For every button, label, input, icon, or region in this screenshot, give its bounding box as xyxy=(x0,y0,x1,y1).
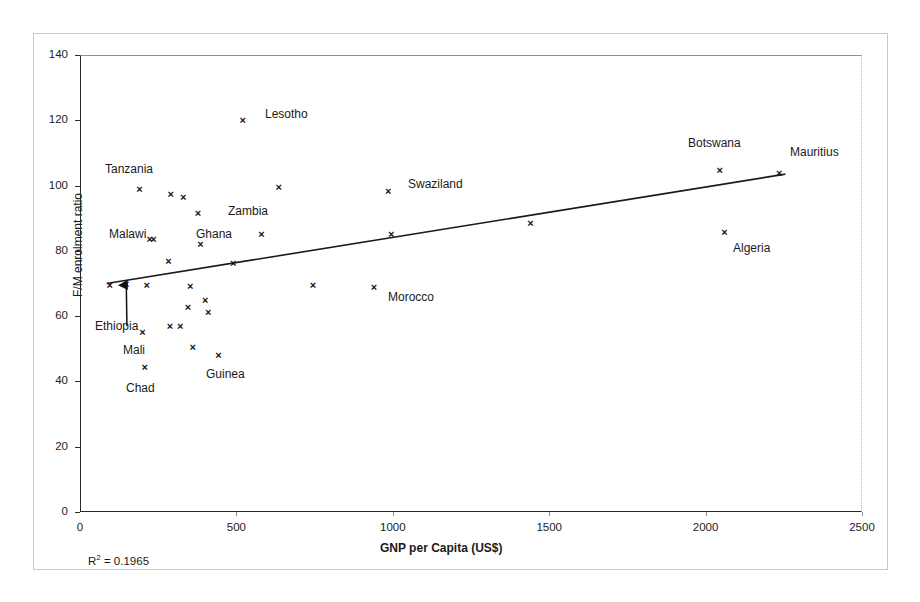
data-point: × xyxy=(179,193,188,202)
data-point: × xyxy=(166,322,175,331)
x-tick-mark xyxy=(706,512,707,516)
label-mali: Mali xyxy=(123,344,145,356)
x-tick-label: 0 xyxy=(50,522,110,534)
r-squared-annotation: R2 = 0.1965 xyxy=(88,553,149,567)
data-point-chad: × xyxy=(140,363,149,372)
data-point: × xyxy=(257,230,266,239)
data-point: × xyxy=(274,183,283,192)
data-point-lesotho: × xyxy=(238,116,247,125)
y-tick-label: 140 xyxy=(28,49,68,61)
data-point-morocco: × xyxy=(370,283,379,292)
label-zambia: Zambia xyxy=(228,205,268,217)
x-tick-label: 500 xyxy=(206,522,266,534)
x-tick-label: 2000 xyxy=(676,522,736,534)
y-tick-mark xyxy=(75,381,80,382)
y-tick-label: 120 xyxy=(28,114,68,126)
label-ghana: Ghana xyxy=(196,228,232,240)
data-point: × xyxy=(186,282,195,291)
label-mauritius: Mauritius xyxy=(790,146,839,158)
data-point: × xyxy=(138,328,147,337)
label-ethiopia: Ethiopia xyxy=(95,320,138,332)
chart-figure: F/M enrolment ratio 02040608010012014005… xyxy=(0,0,920,602)
label-guinea: Guinea xyxy=(206,368,245,380)
label-morocco: Morocco xyxy=(388,291,434,303)
data-point: × xyxy=(149,235,158,244)
label-tanzania: Tanzania xyxy=(105,163,153,175)
data-point: × xyxy=(204,308,213,317)
data-point: × xyxy=(526,219,535,228)
label-lesotho: Lesotho xyxy=(265,108,308,120)
y-tick-mark xyxy=(75,120,80,121)
label-chad: Chad xyxy=(126,382,155,394)
data-point: × xyxy=(387,230,396,239)
y-tick-mark xyxy=(75,316,80,317)
label-algeria: Algeria xyxy=(733,242,770,254)
data-point-tanzania: × xyxy=(135,185,144,194)
y-tick-label: 60 xyxy=(28,310,68,322)
data-point-guinea: × xyxy=(214,351,223,360)
data-point: × xyxy=(105,281,114,290)
data-point: × xyxy=(188,343,197,352)
y-tick-label: 100 xyxy=(28,180,68,192)
x-tick-mark xyxy=(236,512,237,516)
y-tick-mark xyxy=(75,251,80,252)
data-point-algeria: × xyxy=(720,228,729,237)
data-point: × xyxy=(176,322,185,331)
y-tick-label: 0 xyxy=(28,506,68,518)
y-tick-mark xyxy=(75,186,80,187)
data-point: × xyxy=(142,281,151,290)
data-point-ghana: × xyxy=(196,240,205,249)
x-tick-mark xyxy=(393,512,394,516)
data-point: × xyxy=(229,259,238,268)
y-tick-mark xyxy=(75,512,80,513)
plot-area xyxy=(80,55,862,512)
label-swaziland: Swaziland xyxy=(408,178,463,190)
data-point: × xyxy=(309,281,318,290)
data-point-mauritius: × xyxy=(775,169,784,178)
y-tick-label: 80 xyxy=(28,245,68,257)
data-point-swaziland: × xyxy=(384,187,393,196)
data-point-botswana: × xyxy=(715,166,724,175)
data-point-zambia: × xyxy=(193,209,202,218)
x-tick-label: 2500 xyxy=(832,522,892,534)
x-tick-label: 1000 xyxy=(363,522,423,534)
data-point: × xyxy=(164,257,173,266)
y-tick-label: 20 xyxy=(28,441,68,453)
data-point: × xyxy=(166,190,175,199)
x-tick-label: 1500 xyxy=(519,522,579,534)
x-tick-mark xyxy=(549,512,550,516)
label-botswana: Botswana xyxy=(688,137,741,149)
r-squared-text: R2 = 0.1965 xyxy=(88,555,149,567)
data-point: × xyxy=(183,303,192,312)
data-point-ethiopia: × xyxy=(122,280,131,289)
x-axis-title: GNP per Capita (US$) xyxy=(380,541,502,555)
y-tick-mark xyxy=(75,55,80,56)
data-point: × xyxy=(201,296,210,305)
label-malawi: Malawi xyxy=(109,228,146,240)
y-tick-mark xyxy=(75,447,80,448)
x-tick-mark xyxy=(862,512,863,516)
y-tick-label: 40 xyxy=(28,375,68,387)
